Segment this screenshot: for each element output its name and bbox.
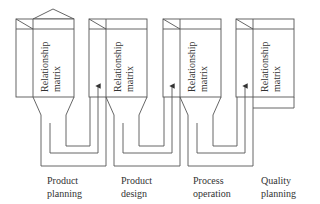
phase-label-line2: operation: [193, 187, 231, 200]
phase-label-line2: planning: [47, 187, 82, 200]
funnel-1: [33, 97, 41, 166]
phase-label-line1: Product: [47, 174, 82, 187]
phase-label-line1: Product: [121, 174, 152, 187]
svg-text:matrix: matrix: [271, 66, 282, 92]
correlation-roof: [33, 9, 74, 19]
phase-label-product-planning: Product planning: [47, 174, 82, 200]
svg-text:matrix: matrix: [124, 66, 135, 92]
phase-label-process-operation: Process operation: [193, 174, 231, 200]
phase-label-product-design: Product design: [121, 174, 152, 200]
phase-label-line2: design: [121, 187, 152, 200]
phase-label-line1: Process: [193, 174, 231, 187]
svg-text:matrix: matrix: [198, 66, 209, 92]
svg-text:Relationship: Relationship: [39, 41, 50, 92]
svg-text:Relationship: Relationship: [259, 41, 270, 92]
svg-text:matrix: matrix: [51, 66, 62, 92]
phase-label-line1: Quality: [261, 174, 296, 187]
funnel-3: [180, 97, 188, 166]
svg-text:Relationship: Relationship: [112, 41, 123, 92]
svg-text:Relationship: Relationship: [186, 41, 197, 92]
phase-label-line2: planning: [261, 187, 296, 200]
phase-label-quality-planning: Quality planning: [261, 174, 296, 200]
funnel-2: [106, 97, 114, 166]
